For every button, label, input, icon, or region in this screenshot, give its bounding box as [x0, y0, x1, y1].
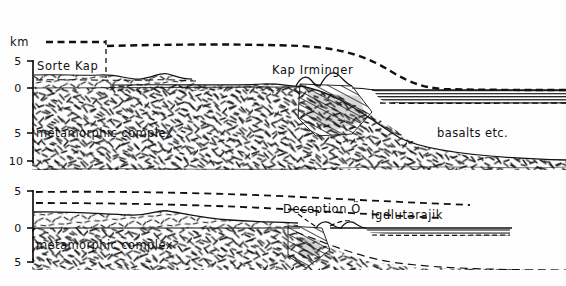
lower-topography-bumps	[316, 222, 366, 228]
lower-surface-sediment	[33, 211, 300, 228]
label-deception-o: Deception Ö	[283, 200, 361, 216]
cross-section-figure: km 5 0 5 10 Sorte Kap Kap Irminger metam…	[0, 0, 566, 286]
label-metamorphic-complex-lower: metamorphic complex	[36, 238, 173, 252]
label-basalts: basalts etc.	[437, 126, 508, 140]
figure-canvas: km 5 0 5 10 Sorte Kap Kap Irminger metam…	[0, 0, 566, 286]
upper-axis-tick-10: 10	[9, 155, 24, 168]
label-kap-irminger: Kap Irminger	[272, 63, 353, 77]
lower-dashed-connector	[298, 214, 318, 228]
label-sorte-kap: Sorte Kap	[37, 59, 98, 73]
lower-basalt-layers	[330, 228, 512, 236]
lower-axis-tick-0: 0	[14, 222, 21, 235]
lower-axis-tick-5-bottom: 5	[14, 256, 21, 269]
upper-axis-tick-0: 0	[14, 82, 21, 95]
upper-axis-tick-5-top: 5	[14, 55, 21, 68]
upper-axis-tick-5-bottom: 5	[14, 127, 21, 140]
panel-upper: km 5 0 5 10 Sorte Kap Kap Irminger metam…	[9, 35, 566, 176]
unit-label-km: km	[10, 35, 29, 49]
label-igdlutarajik: Igdlutarajik	[371, 208, 443, 222]
lower-axis-tick-5-top: 5	[14, 185, 21, 198]
panel-lower: 5 0 5 Deception Ö Igdlutarajik metamorph…	[14, 185, 566, 272]
label-metamorphic-complex-upper: metamorphic complex	[36, 126, 173, 140]
